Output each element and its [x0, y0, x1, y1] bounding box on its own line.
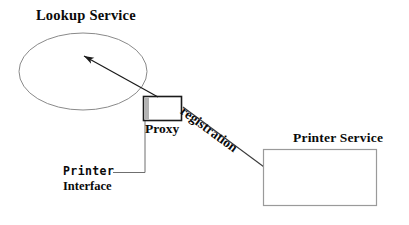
- printer-interface-label-line2: Interface: [63, 180, 112, 193]
- printer-service-rect: [264, 150, 377, 206]
- proxy-rect: [144, 97, 182, 121]
- printer-interface-leader-line: [113, 121, 145, 173]
- diagram-vector-layer: [0, 0, 409, 225]
- lookup-service-ellipse: [19, 33, 147, 110]
- printer-service-label: Printer Service: [293, 131, 383, 145]
- proxy-left-bar: [145, 98, 150, 120]
- diagram-canvas: Lookup Service Proxy Printer Service Pri…: [0, 0, 409, 225]
- lookup-service-label: Lookup Service: [36, 8, 136, 23]
- proxy-label: Proxy: [145, 122, 179, 136]
- printer-interface-label-line1: Printer: [63, 166, 114, 178]
